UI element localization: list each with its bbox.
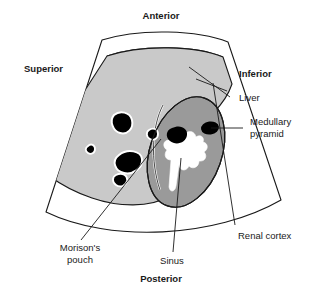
liver-vessel-upper [112, 112, 133, 133]
label-medullary-pyramid-line1: Medullary [250, 116, 291, 127]
diagram-canvas: Anterior Superior Inferior Posterior Liv… [0, 0, 323, 290]
label-sinus: Sinus [160, 255, 184, 266]
label-medullary-pyramid-line2: pyramid [250, 128, 284, 139]
label-posterior: Posterior [140, 273, 182, 284]
label-anterior: Anterior [143, 10, 180, 21]
label-renal-cortex: Renal cortex [238, 230, 292, 241]
label-morisons-pouch-line1: Morison's [60, 242, 101, 253]
label-liver: Liver [239, 92, 260, 103]
label-inferior: Inferior [239, 68, 272, 79]
liver-vessel-central [115, 151, 142, 173]
label-morisons-pouch-line2: pouch [67, 254, 93, 265]
label-superior: Superior [24, 63, 63, 74]
liver-vessel-left [86, 145, 95, 154]
ultrasound-diagram: Anterior Superior Inferior Posterior Liv… [0, 0, 323, 290]
